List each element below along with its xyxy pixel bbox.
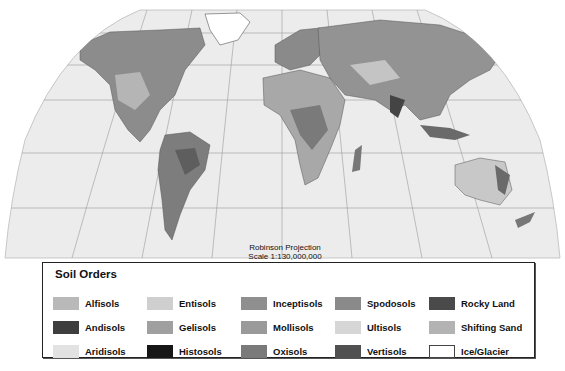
legend-item-vertisols: Vertisols (335, 339, 429, 363)
legend-item-andisols: Andisols (53, 315, 147, 339)
legend-item-rocky-land: Rocky Land (429, 291, 523, 315)
swatch-mollisols (241, 321, 267, 334)
swatch-inceptisols (241, 297, 267, 310)
legend-item-ice-glacier: Ice/Glacier (429, 339, 523, 363)
swatch-shifting-sand (429, 321, 455, 334)
swatch-spodosols (335, 297, 361, 310)
swatch-andisols (53, 321, 79, 334)
legend-item-mollisols: Mollisols (241, 315, 335, 339)
swatch-oxisols (241, 345, 267, 358)
legend-item-shifting-sand: Shifting Sand (429, 315, 523, 339)
legend-item-histosols: Histosols (147, 339, 241, 363)
swatch-alfisols (53, 297, 79, 310)
legend-grid: Alfisols Entisols Inceptisols Spodosols … (53, 291, 523, 363)
legend-item-oxisols: Oxisols (241, 339, 335, 363)
legend-item-inceptisols: Inceptisols (241, 291, 335, 315)
legend-item-spodosols: Spodosols (335, 291, 429, 315)
world-soil-map (0, 0, 565, 262)
swatch-ultisols (335, 321, 361, 334)
swatch-vertisols (335, 345, 361, 358)
swatch-rocky-land (429, 297, 455, 310)
projection-label: Robinson Projection (230, 243, 340, 252)
legend-item-alfisols: Alfisols (53, 291, 147, 315)
swatch-gelisols (147, 321, 173, 334)
legend-item-gelisols: Gelisols (147, 315, 241, 339)
legend-item-aridisols: Aridisols (53, 339, 147, 363)
legend-item-entisols: Entisols (147, 291, 241, 315)
scale-label: Scale 1:130,000,000 (230, 252, 340, 261)
soil-orders-legend: Soil Orders Alfisols Entisols Inceptisol… (42, 262, 535, 358)
swatch-histosols (147, 345, 173, 358)
legend-item-ultisols: Ultisols (335, 315, 429, 339)
legend-title: Soil Orders (55, 268, 117, 280)
swatch-aridisols (53, 345, 79, 358)
projection-note: Robinson Projection Scale 1:130,000,000 (230, 243, 340, 261)
swatch-entisols (147, 297, 173, 310)
swatch-ice-glacier (429, 345, 455, 358)
